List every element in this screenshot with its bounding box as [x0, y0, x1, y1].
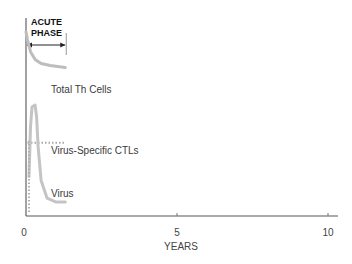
series-group: [26, 32, 65, 212]
x-tick-label: 0: [21, 227, 27, 238]
acute-header-line1: ACUTE: [31, 17, 62, 27]
acute-header-line2: PHASE: [31, 28, 62, 38]
x-axis-label: YEARS: [164, 241, 198, 252]
label-ctls: Virus-Specific CTLs: [51, 145, 139, 156]
arrow-right-head: [60, 43, 65, 48]
x-tick-label: 5: [174, 227, 180, 238]
label-total-th: Total Th Cells: [51, 84, 111, 95]
x-tick-label: 10: [322, 227, 334, 238]
axes: [26, 18, 338, 216]
x-ticks: 0510: [21, 213, 334, 238]
acute-phase-annotation: ACUTE PHASE: [27, 17, 66, 55]
chart: 0510 ACUTE PHASE Total Th Cells Virus-Sp…: [0, 0, 352, 264]
label-virus: Virus: [51, 188, 74, 199]
